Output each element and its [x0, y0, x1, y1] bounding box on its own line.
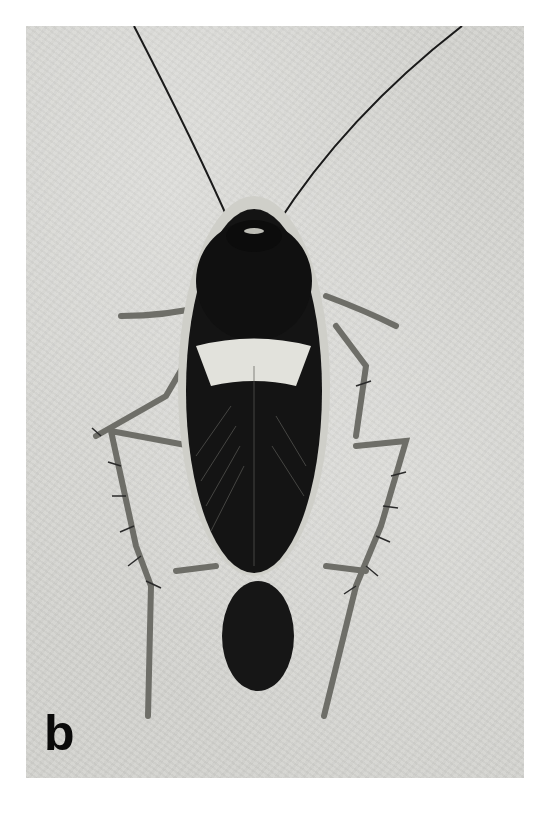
abdomen [222, 581, 294, 691]
right-antenna [276, 26, 462, 226]
left-antenna [134, 26, 231, 226]
panel-label: b [44, 708, 75, 758]
head-highlight [244, 228, 264, 234]
cockroach-illustration [26, 26, 524, 778]
specimen-photo: b [26, 26, 524, 778]
head [226, 220, 282, 252]
